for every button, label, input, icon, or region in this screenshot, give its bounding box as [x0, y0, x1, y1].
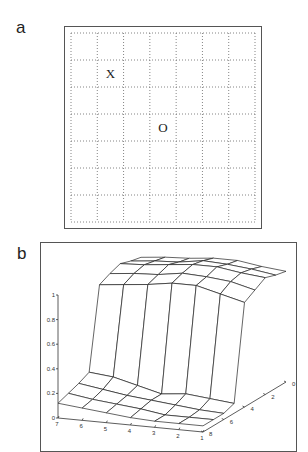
x-tick-label: 3	[152, 430, 156, 436]
z-tick-label: 1	[52, 292, 56, 298]
x-tick-label: 2	[176, 433, 180, 439]
x-tick-label: 6	[79, 423, 83, 429]
y-tick-label: 0	[292, 381, 296, 387]
y-tick	[243, 406, 245, 407]
y-tick	[284, 381, 286, 382]
y-tick-label: 8	[209, 431, 213, 437]
y-tick	[222, 419, 224, 420]
z-tick-label: 0.4	[47, 366, 56, 372]
y-tick	[263, 394, 265, 395]
y-tick-label: 6	[230, 419, 234, 425]
z-tick-label: 0.6	[47, 341, 56, 347]
y-tick-label: 4	[251, 406, 255, 412]
x-tick-label: 7	[55, 421, 59, 427]
y-tick-label: 2	[271, 394, 275, 400]
x-tick-label: 1	[200, 435, 204, 441]
z-tick-label: 0.2	[47, 390, 56, 396]
z-tick-label: 0.8	[47, 317, 56, 323]
x-tick-label: 5	[104, 426, 108, 432]
x-tick-label: 4	[128, 428, 132, 434]
